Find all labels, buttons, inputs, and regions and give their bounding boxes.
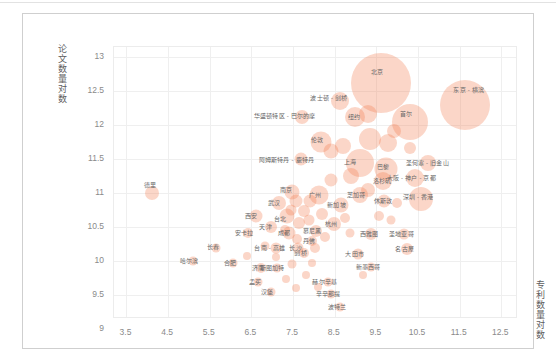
x-tick-label: 7.5 (286, 328, 298, 337)
point-label: 新加坡 (327, 202, 346, 208)
point-label: 巴黎 (377, 164, 389, 170)
data-bubble-unlabeled (335, 138, 351, 154)
data-bubble-unlabeled (340, 213, 350, 223)
point-label: 杭州 (325, 221, 337, 227)
gridline-vertical (335, 47, 336, 317)
y-tick-label: 13 (95, 52, 104, 61)
data-bubble-unlabeled (359, 271, 367, 279)
point-label: 伦敦 (311, 137, 323, 143)
x-axis-title: 专利数量对数 (535, 280, 544, 340)
y-tick-label: 9.5 (92, 290, 104, 299)
gridline-vertical (168, 47, 169, 317)
point-label: 休斯敦 (374, 198, 393, 204)
point-label: 纽约 (348, 114, 360, 120)
point-label: 大田市 (345, 251, 364, 257)
point-label: 南京 (280, 187, 292, 193)
point-label: 慕尼黑 (303, 228, 322, 234)
chart-screenshot: 论文数量对数 专利数量对数 1312.51211.51110.5109.59 3… (0, 0, 556, 362)
point-label: 长春 (207, 244, 219, 250)
point-label: 哈尔滨 (180, 258, 199, 264)
y-tick-label: 11 (95, 188, 104, 197)
data-bubble-unlabeled (392, 198, 402, 208)
point-label: 剑桥 (294, 250, 306, 256)
data-bubble-unlabeled (243, 252, 251, 260)
x-tick-label: 5.5 (203, 328, 215, 337)
point-label: 德里 (144, 182, 156, 188)
gridline-horizontal (114, 57, 516, 58)
data-bubble-unlabeled (343, 168, 359, 184)
y-tick-label: 10.5 (87, 222, 104, 231)
point-label: 成都 (278, 230, 290, 236)
point-label: 名古屋 (395, 246, 414, 252)
data-bubble-unlabeled (298, 205, 310, 217)
y-tick-label: 11.5 (88, 154, 104, 163)
point-label: 广州 (309, 192, 321, 198)
data-bubble-unlabeled (302, 271, 310, 279)
data-bubble-unlabeled (290, 195, 303, 208)
point-label: 首尔 (400, 111, 412, 117)
data-bubble-unlabeled (359, 128, 381, 150)
x-tick-label: 9.5 (369, 328, 381, 337)
data-bubble-unlabeled (316, 208, 328, 220)
x-tick-label: 3.5 (120, 328, 132, 337)
x-tick-label: 10.5 (409, 328, 426, 337)
x-tick-label: 4.5 (161, 328, 173, 337)
data-bubble-unlabeled (310, 243, 320, 253)
point-label: 安卡拉 (235, 230, 254, 236)
point-label: 洛杉矶 (373, 178, 392, 184)
gridline-vertical (418, 47, 419, 317)
point-label: 丹佛 (303, 238, 315, 244)
point-label: 斯图加特 (260, 265, 285, 271)
point-label: 芝加哥 (347, 192, 366, 198)
data-bubble (351, 53, 411, 113)
x-tick-label: 6.5 (245, 328, 257, 337)
point-label: 深圳 - 香港 (403, 194, 434, 200)
x-tick-label: 12.5 (492, 328, 509, 337)
point-label: 武汉 (268, 200, 280, 206)
data-bubble-unlabeled (286, 204, 297, 215)
point-label: 新墨西哥 (356, 264, 381, 270)
point-label: 台北 (274, 216, 286, 222)
point-label: 北京 (371, 69, 383, 75)
gridline-vertical (293, 47, 294, 317)
gridline-vertical (251, 47, 252, 317)
gridline-vertical (210, 47, 211, 317)
point-label: 西雅图 (360, 231, 379, 237)
y-axis-title: 论文数量对数 (57, 44, 66, 104)
data-bubble-unlabeled (379, 134, 397, 152)
data-bubble-unlabeled (345, 228, 354, 237)
y-tick-label: 12 (95, 120, 104, 129)
data-bubble-unlabeled (359, 105, 377, 123)
point-label: 圣何塞 - 旧金山 (406, 160, 449, 166)
point-label: 圣地亚哥 (389, 231, 414, 237)
y-tick-label: 12.5 (87, 86, 104, 95)
data-bubble-unlabeled (282, 275, 290, 283)
plot-area: 北京东京 - 横滨首尔波士顿 - 剑桥华盛顿特区 - 巴尔的摩纽约伦敦阿姆斯特丹… (113, 46, 517, 318)
y-tick-label: 9 (99, 324, 104, 333)
point-label: 台南 - 高雄 (254, 245, 285, 251)
point-label: 孟买 (249, 279, 261, 285)
data-bubble-unlabeled (303, 215, 314, 226)
point-label: 上海 (344, 159, 356, 165)
data-bubble-unlabeled (308, 259, 316, 267)
point-label: 波士顿 - 剑桥 (310, 95, 347, 101)
x-tick-label: 8.5 (328, 328, 340, 337)
data-bubble-unlabeled (272, 253, 280, 261)
chart-card: 论文数量对数 专利数量对数 1312.51211.51110.5109.59 3… (22, 13, 534, 349)
gridline-horizontal (114, 261, 516, 262)
data-bubble-unlabeled (374, 211, 384, 221)
top-divider (0, 2, 556, 3)
gridline-vertical (501, 47, 502, 317)
point-label: 赫尔辛基 (312, 279, 337, 285)
data-bubble-unlabeled (324, 144, 339, 159)
point-label: 华盛顿特区 - 巴尔的摩 (254, 113, 316, 119)
data-bubble-unlabeled (387, 216, 396, 225)
point-label: 东京 - 横滨 (453, 87, 484, 93)
point-label: 大阪 - 神户 - 京都 (387, 175, 436, 181)
point-label: 波特兰 (328, 304, 347, 310)
point-label: 西安 (245, 213, 257, 219)
point-label: 汉堡 (261, 289, 273, 295)
point-label: 天津 (259, 224, 271, 230)
gridline-horizontal (114, 159, 516, 160)
y-tick-label: 10 (95, 256, 104, 265)
